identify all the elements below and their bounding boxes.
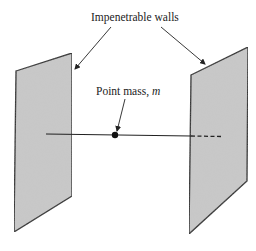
- particle-in-box-diagram: Impenetrable walls Point mass, m: [0, 0, 256, 251]
- point-mass-label-text: Point mass,: [96, 85, 152, 98]
- walls-arrow-right: [161, 27, 205, 64]
- point-mass-label: Point mass, m: [96, 85, 160, 98]
- left-wall: [14, 53, 72, 232]
- right-wall: [189, 47, 248, 234]
- walls-arrow-left: [75, 27, 111, 69]
- walls-label: Impenetrable walls: [91, 11, 179, 24]
- point-mass-dot: [112, 132, 118, 138]
- point-mass-arrow: [117, 99, 125, 131]
- point-mass-symbol: m: [152, 85, 160, 97]
